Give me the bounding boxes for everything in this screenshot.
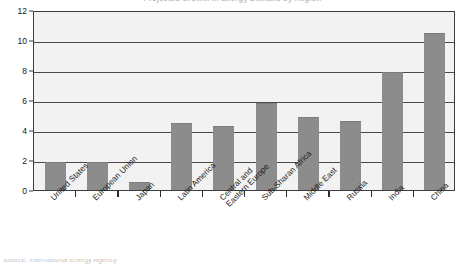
y-axis-tick-label: 6 <box>22 96 27 106</box>
y-axis-tick-label: 0 <box>22 186 27 196</box>
y-axis-tick-label: 4 <box>22 126 27 136</box>
y-axis-tick-label: 2 <box>22 156 27 166</box>
chart-footnote: Source: International Energy Agency <box>3 259 462 263</box>
bar <box>213 126 234 191</box>
bar <box>382 72 403 191</box>
y-axis-tick-label: 8 <box>22 66 27 76</box>
y-axis-tick-label: 10 <box>18 36 27 46</box>
bar <box>171 123 192 191</box>
chart-title-clipped-region: Projected Growth in Energy Demand by Reg… <box>0 0 465 8</box>
plot-wrapper <box>33 11 455 191</box>
bar <box>340 121 361 190</box>
gridline <box>34 42 454 43</box>
chart-title: Projected Growth in Energy Demand by Reg… <box>0 0 465 3</box>
x-axis-labels: United StatesEuropean UnionJapanLatin Am… <box>0 196 465 254</box>
y-axis-tick-label: 12 <box>18 6 27 16</box>
y-axis: 024681012 <box>0 11 33 191</box>
bar <box>424 33 445 191</box>
footnote-clipped-region: Source: International Energy Agency <box>0 259 465 267</box>
bar-chart-figure: Projected Growth in Energy Demand by Reg… <box>0 0 465 267</box>
plot-area <box>33 11 455 191</box>
